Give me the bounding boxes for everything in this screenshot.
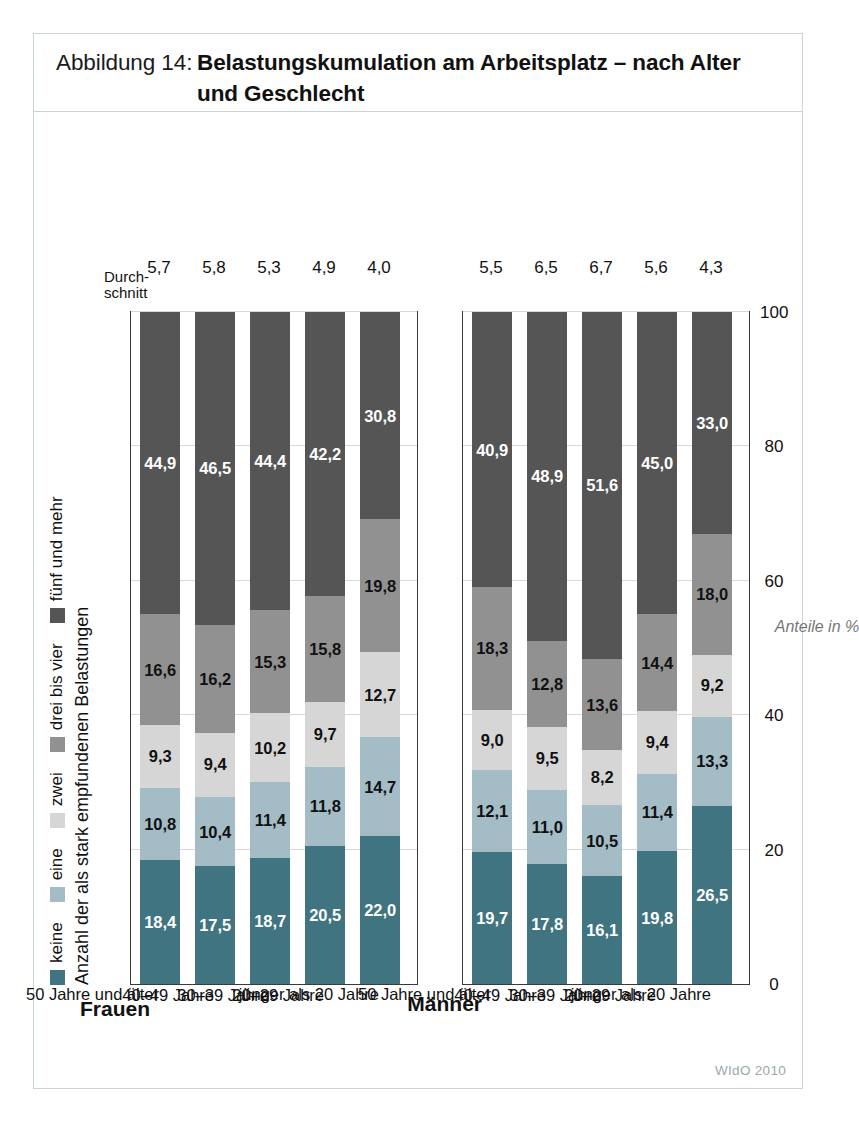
bar-segment: 14,4 — [637, 614, 677, 711]
bar-row: 18,410,89,316,644,9 — [140, 312, 180, 984]
axis-tick-label: 60 — [760, 571, 788, 591]
bar-segment-value: 51,6 — [586, 477, 618, 494]
bar-segment: 48,9 — [527, 312, 567, 641]
bar-row: 17,811,09,512,848,9 — [527, 312, 567, 984]
bar-segment-value: 46,5 — [199, 460, 231, 477]
average-value: 6,5 — [526, 245, 566, 291]
legend-item-label: fünf und mehr — [47, 496, 67, 601]
average-value: 4,3 — [691, 245, 731, 291]
bar-segment-value: 18,4 — [144, 913, 176, 930]
bar-segment: 44,4 — [250, 312, 290, 610]
bar-segment: 9,5 — [527, 726, 567, 790]
bar-segment-value: 45,0 — [641, 455, 673, 472]
bar-segment-value: 12,8 — [531, 675, 563, 692]
bar-segment: 19,7 — [472, 851, 512, 983]
bar-row: 19,712,19,018,340,9 — [472, 312, 512, 984]
bar-segment-value: 44,9 — [144, 454, 176, 471]
bar-segment-value: 10,2 — [254, 739, 286, 756]
bar-segment-value: 9,3 — [149, 748, 172, 765]
average-value-text: 4,0 — [367, 258, 391, 278]
bar-segment: 30,8 — [360, 312, 400, 519]
bar-segment-value: 19,8 — [641, 909, 673, 926]
bar-segment: 10,8 — [140, 787, 180, 860]
bar-segment: 9,4 — [195, 733, 235, 796]
legend-item-label: zwei — [47, 772, 67, 806]
bar-segment-value: 17,8 — [531, 915, 563, 932]
bar-segment: 9,4 — [637, 711, 677, 774]
group-title: Frauen — [80, 996, 150, 1020]
bar-segment: 11,4 — [250, 781, 290, 858]
bar-segment: 18,3 — [472, 586, 512, 709]
average-value-text: 5,6 — [644, 258, 668, 278]
bar-segment: 9,7 — [305, 701, 345, 766]
bar-segment: 13,6 — [582, 658, 622, 749]
average-value-text: 5,5 — [479, 258, 503, 278]
figure-frame: Abbildung 14: Belastungskumulation am Ar… — [33, 33, 803, 1089]
bar-segment: 9,0 — [472, 709, 512, 769]
average-column-header: Durch-schnitt — [104, 269, 149, 301]
bar-segment: 11,4 — [637, 774, 677, 851]
bar-segment: 10,4 — [195, 796, 235, 866]
bar-segment: 9,3 — [140, 725, 180, 787]
average-value-text: 5,8 — [202, 258, 226, 278]
axis-tick-label: 40 — [760, 706, 788, 726]
bar-segment: 42,2 — [305, 312, 345, 596]
bar-segment-value: 30,8 — [364, 407, 396, 424]
bar-segment-value: 10,8 — [144, 815, 176, 832]
bar-segment-value: 9,4 — [646, 734, 669, 751]
bar-segment: 18,0 — [692, 533, 732, 654]
average-value: 5,5 — [471, 245, 511, 291]
legend-item-label: drei bis vier — [47, 643, 67, 730]
stacked-bar-chart: keineeinezweidrei bis vierfünf und mehr … — [38, 121, 798, 1081]
bar-segment-value: 13,3 — [696, 752, 728, 769]
axis-tick-label: 0 — [760, 975, 788, 995]
bar-segment-value: 12,1 — [476, 802, 508, 819]
average-value: 5,3 — [249, 245, 289, 291]
bar-segment: 10,5 — [582, 805, 622, 876]
bar-segment: 17,5 — [195, 866, 235, 984]
bar-segment: 12,1 — [472, 770, 512, 851]
bar-segment-value: 13,6 — [586, 696, 618, 713]
bar-segment-value: 16,1 — [586, 921, 618, 938]
bar-row: 22,014,712,719,830,8 — [360, 312, 400, 984]
legend-swatch-icon — [50, 608, 65, 623]
bar-segment-value: 18,3 — [476, 640, 508, 657]
bar-segment: 18,4 — [140, 860, 180, 984]
bar-segment: 11,8 — [305, 766, 345, 845]
bar-segment: 14,7 — [360, 737, 400, 836]
average-value: 5,8 — [194, 245, 234, 291]
figure-title-line2: und Geschlecht — [197, 81, 364, 107]
bar-row: 17,510,49,416,246,5 — [195, 312, 235, 984]
bar-segment-value: 15,3 — [254, 653, 286, 670]
bar-segment-value: 19,7 — [476, 909, 508, 926]
bar-segment-value: 8,2 — [591, 769, 614, 786]
legend-item: eine — [47, 848, 67, 902]
bar-segment: 17,8 — [527, 864, 567, 984]
bar-segment: 16,6 — [140, 613, 180, 725]
bar-segment-value: 9,7 — [314, 726, 337, 743]
bar-segment: 18,7 — [250, 858, 290, 984]
legend-item: fünf und mehr — [47, 496, 67, 623]
legend-item-label: keine — [47, 922, 67, 963]
chart-area: keineeinezweidrei bis vierfünf und mehr … — [34, 113, 802, 1088]
bar-segment: 12,8 — [527, 640, 567, 726]
bar-row: 16,110,58,213,651,6 — [582, 312, 622, 984]
axis-tick-label: 100 — [760, 303, 788, 323]
legend-swatch-icon — [50, 970, 65, 985]
bar-segment-value: 11,4 — [254, 811, 285, 828]
legend-swatch-icon — [50, 737, 65, 752]
bar-segment: 15,8 — [305, 595, 345, 701]
axis-tick-label: 80 — [760, 437, 788, 457]
bar-segment-value: 48,9 — [531, 468, 563, 485]
average-header-line2: schnitt — [104, 284, 149, 300]
average-value-text: 6,7 — [589, 258, 613, 278]
bar-segment-value: 11,8 — [309, 798, 340, 815]
axis-tick-label: 20 — [760, 840, 788, 860]
bar-segment-value: 19,8 — [364, 577, 396, 594]
bar-segment-value: 17,5 — [199, 916, 231, 933]
category-label-text: jünger als 20 Jahre — [571, 985, 711, 1004]
bar-segment: 16,2 — [195, 624, 235, 733]
plot-panel-frauen: 18,410,89,316,644,917,510,49,416,246,518… — [130, 311, 418, 985]
average-value-text: 6,5 — [534, 258, 558, 278]
bar-segment-value: 18,7 — [254, 912, 286, 929]
